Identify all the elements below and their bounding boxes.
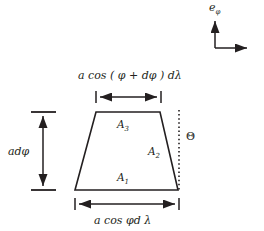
area-label-a1-symbol: A	[117, 171, 125, 183]
top-dimension-label: a cos ( φ + dφ ) dλ	[78, 70, 182, 81]
diagram-vector-graphics	[0, 0, 264, 231]
figure-canvas: a cos ( φ + dφ ) dλ a cos φd λ adφ A3 A2…	[0, 0, 264, 231]
unit-vector-subscript: φ	[216, 8, 221, 16]
bottom-dimension-label: a cos φd λ	[94, 215, 151, 226]
area-label-a2-subscript: 2	[156, 152, 160, 160]
area-label-a3: A3	[117, 119, 129, 133]
unit-vector-label: eφ	[209, 2, 220, 16]
area-label-a2: A2	[148, 146, 160, 160]
area-label-a1: A1	[117, 172, 129, 186]
area-label-a3-subscript: 3	[125, 125, 129, 133]
left-dimension-label: adφ	[8, 146, 29, 157]
area-label-a1-subscript: 1	[125, 178, 129, 186]
area-label-a3-symbol: A	[117, 118, 125, 130]
area-label-a2-symbol: A	[148, 145, 156, 157]
angle-label-theta: Θ	[186, 131, 195, 142]
